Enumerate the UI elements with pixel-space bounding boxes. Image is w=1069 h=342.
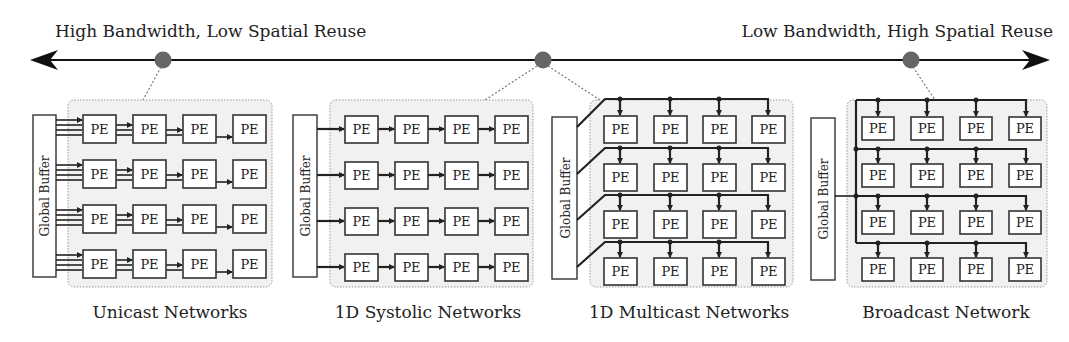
- bandwidth-reuse-axis: High Bandwidth, Low Spatial Reuse Low Ba…: [30, 21, 1053, 100]
- pe: PE: [862, 117, 894, 140]
- leader-line-multicast: [548, 66, 600, 100]
- pe: PE: [233, 205, 266, 233]
- pe: PE: [911, 164, 943, 187]
- pe: PE: [654, 164, 687, 191]
- pe: PE: [495, 116, 528, 143]
- pe: PE: [911, 211, 943, 234]
- pe: PE: [604, 116, 637, 143]
- pe: PE: [445, 116, 478, 143]
- pe: PE: [133, 205, 166, 233]
- pe: PE: [911, 117, 943, 140]
- svg-text:PE: PE: [140, 212, 158, 227]
- svg-text:PE: PE: [452, 122, 470, 137]
- svg-text:PE: PE: [759, 170, 777, 185]
- svg-text:PE: PE: [190, 167, 208, 182]
- panel-label-broadcast: Broadcast Network: [862, 302, 1030, 322]
- pe: PE: [183, 115, 216, 143]
- svg-text:PE: PE: [967, 262, 985, 277]
- svg-text:PE: PE: [240, 167, 258, 182]
- pe: PE: [395, 162, 428, 189]
- pe: PE: [233, 160, 266, 188]
- svg-text:PE: PE: [402, 168, 420, 183]
- pe: PE: [862, 211, 894, 234]
- pe: PE: [345, 116, 378, 143]
- pe: PE: [395, 116, 428, 143]
- pe: PE: [960, 164, 992, 187]
- svg-text:PE: PE: [710, 217, 728, 232]
- pe: PE: [604, 164, 637, 191]
- svg-text:PE: PE: [661, 264, 679, 279]
- svg-text:PE: PE: [869, 262, 887, 277]
- svg-text:PE: PE: [710, 264, 728, 279]
- svg-text:PE: PE: [452, 168, 470, 183]
- panel-multicast: Global Buffer: [552, 97, 793, 323]
- svg-text:PE: PE: [502, 214, 520, 229]
- pe: PE: [862, 164, 894, 187]
- svg-text:PE: PE: [240, 122, 258, 137]
- panel-unicast: Global Buffer: [33, 100, 272, 322]
- pe: PE: [445, 208, 478, 235]
- pe: PE: [495, 208, 528, 235]
- axis-marker-unicast: [155, 52, 172, 69]
- axis-left-label: High Bandwidth, Low Spatial Reuse: [55, 21, 366, 41]
- svg-text:PE: PE: [869, 168, 887, 183]
- network-spectrum-diagram: High Bandwidth, Low Spatial Reuse Low Ba…: [0, 0, 1069, 342]
- svg-text:PE: PE: [90, 212, 108, 227]
- svg-text:PE: PE: [869, 215, 887, 230]
- panel-label-multicast: 1D Multicast Networks: [589, 302, 789, 322]
- svg-text:PE: PE: [967, 215, 985, 230]
- svg-text:PE: PE: [140, 167, 158, 182]
- svg-text:PE: PE: [90, 167, 108, 182]
- pe: PE: [960, 258, 992, 281]
- pe: PE: [345, 208, 378, 235]
- svg-text:PE: PE: [452, 214, 470, 229]
- pe: PE: [133, 160, 166, 188]
- pe: PE: [233, 250, 266, 278]
- svg-text:PE: PE: [140, 122, 158, 137]
- svg-text:PE: PE: [661, 170, 679, 185]
- svg-text:PE: PE: [611, 170, 629, 185]
- pe: PE: [495, 162, 528, 189]
- svg-text:PE: PE: [240, 212, 258, 227]
- svg-text:PE: PE: [710, 122, 728, 137]
- svg-text:PE: PE: [710, 170, 728, 185]
- pe: PE: [752, 164, 785, 191]
- axis-marker-broadcast: [903, 52, 920, 69]
- global-buffer-label: Global Buffer: [559, 157, 573, 238]
- pe: PE: [345, 162, 378, 189]
- pe: PE: [183, 160, 216, 188]
- svg-text:PE: PE: [661, 217, 679, 232]
- svg-text:PE: PE: [759, 264, 777, 279]
- svg-text:PE: PE: [967, 168, 985, 183]
- svg-text:PE: PE: [918, 215, 936, 230]
- pe: PE: [911, 258, 943, 281]
- svg-text:PE: PE: [240, 257, 258, 272]
- leader-line-unicast: [143, 67, 161, 100]
- pe: PE: [604, 258, 637, 285]
- pe: PE: [703, 211, 736, 238]
- svg-text:PE: PE: [661, 122, 679, 137]
- svg-text:PE: PE: [352, 214, 370, 229]
- pe: PE: [83, 250, 116, 278]
- pe: PE: [183, 205, 216, 233]
- pe: PE: [445, 254, 478, 281]
- pe: PE: [1009, 164, 1041, 187]
- pe: PE: [83, 205, 116, 233]
- pe: PE: [654, 258, 687, 285]
- svg-text:PE: PE: [918, 262, 936, 277]
- pe: PE: [752, 258, 785, 285]
- pe: PE: [654, 116, 687, 143]
- pe: PE: [960, 211, 992, 234]
- svg-text:PE: PE: [759, 217, 777, 232]
- svg-text:PE: PE: [967, 121, 985, 136]
- svg-text:PE: PE: [502, 122, 520, 137]
- leader-line-broadcast: [913, 67, 935, 100]
- svg-text:PE: PE: [918, 121, 936, 136]
- svg-text:PE: PE: [502, 168, 520, 183]
- svg-text:PE: PE: [190, 122, 208, 137]
- pe: PE: [703, 164, 736, 191]
- svg-text:PE: PE: [352, 168, 370, 183]
- pe: PE: [703, 258, 736, 285]
- pe: PE: [83, 115, 116, 143]
- pe: PE: [862, 258, 894, 281]
